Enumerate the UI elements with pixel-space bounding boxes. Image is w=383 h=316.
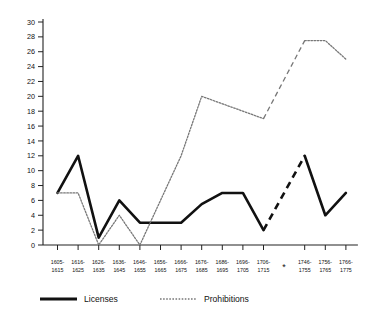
y-tick-label: 10 [27, 166, 35, 175]
chart-legend: LicensesProhibitions [40, 294, 249, 304]
x-tick-label-bottom: 1675 [175, 267, 187, 273]
x-tick-label-bottom: 1685 [196, 267, 208, 273]
y-tick-label: 0 [31, 241, 35, 250]
x-tick-label-top: 1616- [71, 259, 85, 265]
y-tick-label: 18 [27, 107, 35, 116]
y-axis: 024681012141618202224262830 [27, 18, 43, 250]
y-tick-label: 22 [27, 77, 35, 86]
y-tick-label: 30 [27, 18, 35, 27]
x-tick-label-top: 1706- [257, 259, 271, 265]
series-bridge-prohibitions [264, 41, 305, 119]
series-line-late-licenses [305, 156, 346, 215]
x-tick-label-bottom: 1625 [72, 267, 84, 273]
y-tick-label: 20 [27, 92, 35, 101]
y-tick-label: 2 [31, 226, 35, 235]
x-tick-label-bottom: 1645 [113, 267, 125, 273]
y-tick-label: 24 [27, 62, 35, 71]
x-tick-label-bottom: 1765 [319, 267, 331, 273]
y-tick-label: 8 [31, 181, 35, 190]
x-tick-label-bottom: 1615 [52, 267, 64, 273]
x-tick-label-top: 1666- [174, 259, 188, 265]
y-tick-label: 26 [27, 47, 35, 56]
axis-break-asterisk: * [282, 262, 286, 272]
x-tick-label-top: 1696- [236, 259, 250, 265]
x-tick-label-bottom: 1715 [258, 267, 270, 273]
series-bridge-licenses [264, 156, 305, 230]
y-tick-label: 4 [31, 211, 35, 220]
line-chart: 024681012141618202224262830 1605-1615161… [0, 0, 383, 316]
x-tick-label-top: 1646- [133, 259, 147, 265]
x-tick-label-bottom: 1665 [155, 267, 167, 273]
x-tick-label-top: 1626- [92, 259, 106, 265]
series-line-late-prohibitions [305, 41, 346, 60]
x-tick-label-top: 1686- [216, 259, 230, 265]
x-tick-label-top: 1766- [339, 259, 353, 265]
y-tick-label: 28 [27, 32, 35, 41]
x-tick-label-bottom: 1705 [237, 267, 249, 273]
x-tick-labels: 1605-16151616-16251626-16351636-16451646… [51, 259, 353, 273]
x-tick-label-bottom: 1695 [216, 267, 228, 273]
legend-label-prohibitions: Prohibitions [204, 294, 249, 304]
series-lines [58, 41, 346, 245]
x-tick-label-top: 1756- [319, 259, 333, 265]
chart-container: 024681012141618202224262830 1605-1615161… [0, 0, 383, 316]
y-tick-label: 14 [27, 137, 35, 146]
x-tick-label-bottom: 1775 [340, 267, 352, 273]
x-tick-label-top: 1636- [113, 259, 127, 265]
x-tick-label-top: 1656- [154, 259, 168, 265]
y-tick-label: 12 [27, 151, 35, 160]
x-tick-label-bottom: 1655 [134, 267, 146, 273]
x-tick-label-bottom: 1755 [299, 267, 311, 273]
y-tick-label: 16 [27, 122, 35, 131]
y-tick-label: 6 [31, 196, 35, 205]
axis-break-marker: * [282, 262, 286, 272]
series-line-licenses [58, 156, 264, 238]
x-tick-label-bottom: 1635 [93, 267, 105, 273]
x-tick-label-top: 1605- [51, 259, 65, 265]
legend-label-licenses: Licenses [84, 294, 118, 304]
x-tick-label-top: 1746- [298, 259, 312, 265]
x-tick-label-top: 1676- [195, 259, 209, 265]
x-axis [43, 245, 358, 250]
